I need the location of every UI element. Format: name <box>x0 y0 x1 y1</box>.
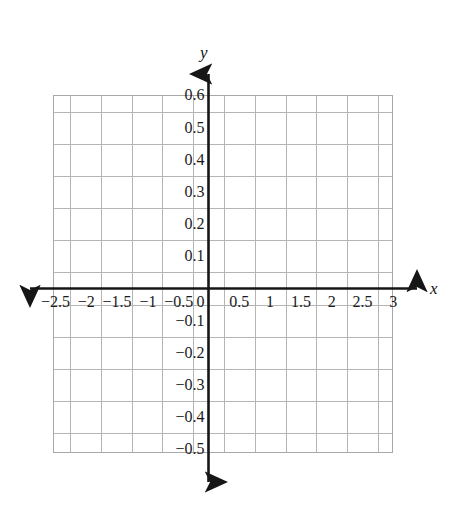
coordinate-plane-figure: −2.5−2−1.5−1−0.500.511.522.53 0.60.50.40… <box>0 0 458 508</box>
grid-border <box>54 96 393 453</box>
y-tick-label: −0.2 <box>0 345 205 361</box>
y-tick-label: 0.2 <box>0 216 205 232</box>
y-tick-label: 0.5 <box>0 120 205 136</box>
y-tick-label: −0.4 <box>0 409 205 425</box>
y-tick-label: −0.1 <box>0 313 205 329</box>
x-tick-label: 0.5 <box>229 294 249 310</box>
y-tick-label: 0.4 <box>0 152 205 168</box>
y-tick-label: 0.6 <box>0 87 205 103</box>
x-tick-label: 1.5 <box>291 294 311 310</box>
x-tick-label: 2.5 <box>353 294 373 310</box>
y-axis-label: y <box>200 44 208 61</box>
grid-lines <box>54 96 393 453</box>
x-tick-label: 3 <box>389 294 397 310</box>
x-tick-label: 1 <box>266 294 274 310</box>
y-tick-label: 0.1 <box>0 248 205 264</box>
y-tick-label: 0.3 <box>0 184 205 200</box>
x-tick-label: 0 <box>197 294 205 310</box>
x-tick-label: 2 <box>328 294 336 310</box>
x-axis-label: x <box>430 280 438 297</box>
x-tick-label: −2.5 <box>41 294 70 310</box>
x-tick-label: −2 <box>78 294 95 310</box>
x-tick-label: −1 <box>139 294 156 310</box>
x-tick-label: −0.5 <box>164 294 193 310</box>
y-tick-label: −0.5 <box>0 441 205 457</box>
x-tick-label: −1.5 <box>103 294 132 310</box>
y-tick-label: −0.3 <box>0 377 205 393</box>
